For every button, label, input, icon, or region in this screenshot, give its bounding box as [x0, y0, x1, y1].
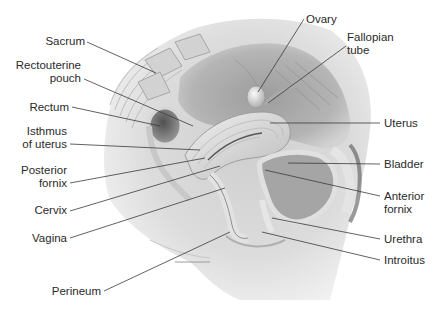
label-rectum: Rectum — [29, 101, 69, 114]
label-fallopian-tube: Fallopian tube — [347, 31, 394, 57]
label-perineum: Perineum — [52, 285, 101, 298]
label-rectouterine-pouch: Rectouterine pouch — [16, 59, 81, 85]
label-posterior-fornix: Posterior fornix — [21, 164, 67, 190]
label-cervix: Cervix — [34, 204, 67, 217]
label-urethra: Urethra — [384, 233, 422, 246]
label-sacrum: Sacrum — [45, 35, 85, 48]
label-ovary: Ovary — [306, 13, 337, 26]
label-vagina: Vagina — [32, 232, 67, 245]
label-uterus: Uterus — [384, 117, 418, 130]
rectum — [149, 108, 181, 144]
label-introitus: Introitus — [384, 254, 425, 267]
ovary — [247, 86, 265, 108]
anatomy-diagram: Sacrum Rectouterine pouch Rectum Isthmus… — [0, 0, 443, 317]
label-anterior-fornix: Anterior fornix — [384, 190, 424, 216]
label-bladder: Bladder — [384, 158, 424, 171]
label-isthmus-of-uterus: Isthmus of uterus — [22, 125, 67, 151]
